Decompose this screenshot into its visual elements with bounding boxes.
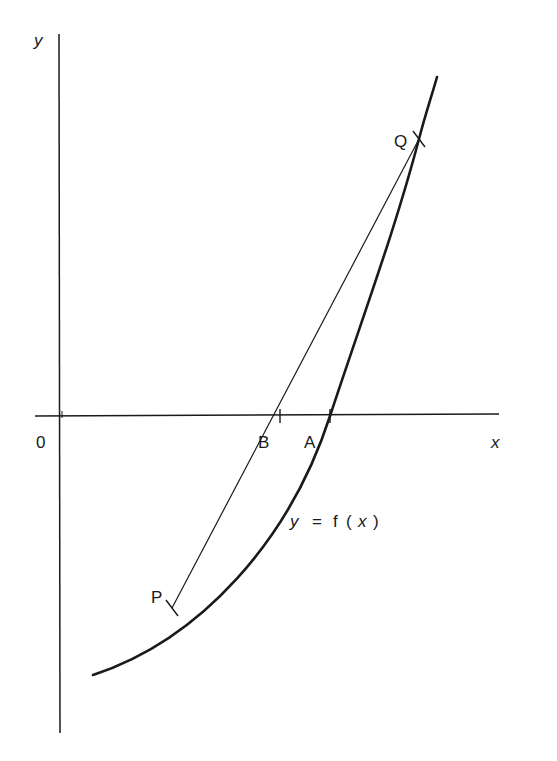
y-axis [59, 34, 60, 733]
chord-pq [172, 139, 419, 608]
point-a-label: A [304, 433, 316, 452]
x-axis-label: x [490, 433, 500, 452]
curve-f [93, 608, 172, 675]
eq-x: x [357, 512, 367, 531]
eq-y: y [289, 512, 300, 531]
origin-label: 0 [36, 433, 45, 452]
point-q-label: Q [394, 132, 407, 151]
eq-f: f [333, 512, 338, 531]
diagram-canvas: y x 0 B A P Q y = f ( x ) [0, 0, 557, 761]
x-axis [35, 414, 499, 416]
function-curve [93, 77, 437, 675]
tick-q [413, 131, 425, 147]
eq-lparen: ( [346, 512, 352, 531]
eq-equals: = [312, 512, 322, 531]
y-axis-label: y [33, 31, 44, 50]
point-b-label: B [258, 433, 269, 452]
point-p-label: P [151, 588, 162, 607]
curve-equation-label: y = f ( x ) [289, 512, 379, 531]
tick-p [166, 600, 178, 616]
eq-rparen: ) [373, 512, 379, 531]
